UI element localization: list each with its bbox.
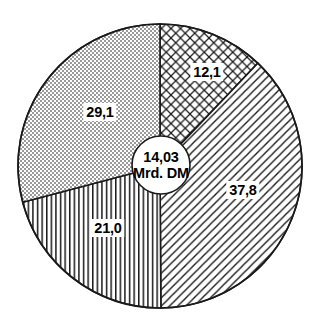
pie-center-value: 14,03 <box>133 149 189 165</box>
slice-label-1: 37,8 <box>226 181 259 199</box>
pie-center-label: 14,03 Mrd. DM <box>133 149 189 181</box>
slice-label-2: 21,0 <box>91 219 124 237</box>
slice-label-0: 12,1 <box>190 63 223 81</box>
pie-center-unit: Mrd. DM <box>133 165 189 181</box>
pie-chart-figure: 14,03 Mrd. DM 12,1 37,8 21,0 29,1 <box>0 0 313 333</box>
slice-label-3: 29,1 <box>83 103 116 121</box>
